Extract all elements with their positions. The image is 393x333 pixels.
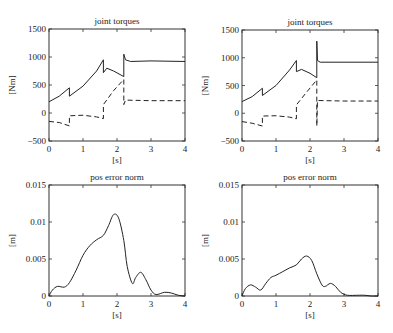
x-tick-label: 4 — [376, 299, 381, 309]
y-axis-label: [m] — [7, 234, 17, 247]
series-solid-line — [242, 256, 378, 296]
y-tick-label: 500 — [226, 81, 240, 91]
x-tick-label: 0 — [240, 144, 245, 154]
y-axis-label: [Nm] — [7, 75, 17, 95]
x-axis-label: [s] — [112, 155, 122, 165]
series-solid-line — [49, 214, 185, 296]
y-tick-label: 0 — [235, 291, 240, 301]
x-tick-label: 1 — [274, 299, 279, 309]
y-tick-label: −500 — [27, 136, 46, 146]
y-tick-label: 1500 — [221, 25, 240, 35]
x-tick-label: 0 — [47, 299, 52, 309]
x-axis-label: [s] — [305, 155, 315, 165]
x-tick-label: 0 — [47, 144, 52, 154]
plot-joint-torques-right: 01234−500050010001500joint torques[s][Nm… — [200, 17, 381, 165]
y-tick-label: 0.015 — [26, 180, 47, 190]
x-tick-label: 1 — [81, 299, 86, 309]
chart-title: joint torques — [93, 16, 140, 26]
y-tick-label: 0 — [235, 108, 240, 118]
chart-title: pos error norm — [90, 172, 144, 182]
plot-pos-error-right: 0123400.0050.010.015pos error norm[s][m] — [200, 172, 381, 320]
y-tick-label: 0.005 — [219, 254, 240, 264]
y-tick-label: 1000 — [28, 52, 47, 62]
x-tick-label: 0 — [240, 299, 245, 309]
plot-pos-error-left: 0123400.0050.010.015pos error norm[s][m] — [7, 172, 188, 320]
x-tick-label: 3 — [149, 299, 154, 309]
x-tick-label: 1 — [81, 144, 86, 154]
y-tick-label: −500 — [220, 136, 239, 146]
y-tick-label: 1500 — [28, 24, 47, 34]
x-tick-label: 3 — [149, 144, 154, 154]
y-tick-label: 0 — [42, 291, 47, 301]
x-tick-label: 2 — [308, 299, 313, 309]
y-tick-label: 1000 — [221, 53, 240, 63]
y-tick-label: 0.01 — [30, 217, 46, 227]
y-axis-label: [m] — [200, 234, 210, 247]
series-dashed-line — [242, 80, 378, 126]
axes-frame — [49, 185, 185, 296]
y-axis-label: [Nm] — [200, 76, 210, 96]
x-tick-label: 4 — [376, 144, 381, 154]
x-tick-label: 2 — [115, 144, 120, 154]
x-tick-label: 1 — [274, 144, 279, 154]
y-tick-label: 0 — [42, 108, 47, 118]
chart-title: joint torques — [286, 17, 333, 27]
x-tick-label: 3 — [342, 299, 347, 309]
y-tick-label: 0.015 — [219, 180, 240, 190]
series-dashed-line — [49, 79, 185, 125]
y-tick-label: 0.01 — [223, 217, 239, 227]
plot-joint-torques-left: 01234−500050010001500joint torques[s][Nm… — [7, 16, 188, 165]
axes-frame — [242, 30, 378, 141]
x-axis-label: [s] — [112, 310, 122, 320]
x-tick-label: 2 — [308, 144, 313, 154]
x-tick-label: 4 — [183, 144, 188, 154]
figure: 01234−500050010001500joint torques[s][Nm… — [0, 0, 393, 333]
x-tick-label: 2 — [115, 299, 120, 309]
axes-frame — [49, 29, 185, 141]
series-solid-line — [242, 41, 378, 101]
axes-frame — [242, 185, 378, 296]
x-axis-label: [s] — [305, 310, 315, 320]
y-tick-label: 500 — [33, 80, 47, 90]
x-tick-label: 3 — [342, 144, 347, 154]
chart-title: pos error norm — [283, 172, 337, 182]
x-tick-label: 4 — [183, 299, 188, 309]
series-solid-line — [49, 54, 185, 102]
y-tick-label: 0.005 — [26, 254, 47, 264]
